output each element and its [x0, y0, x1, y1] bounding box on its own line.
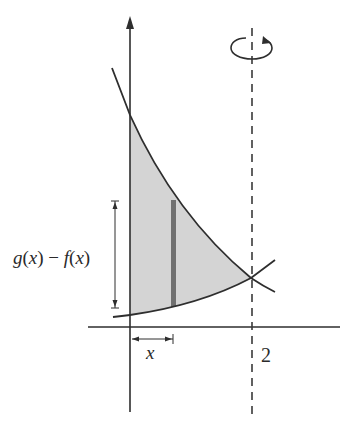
height-label: g(x) − f(x): [13, 247, 90, 269]
shell-method-diagram: g(x) − f(x) x 2: [0, 0, 340, 434]
y-axis-arrow-icon: [126, 16, 134, 29]
radius-label: x: [145, 342, 155, 363]
axis-tick-label-2: 2: [261, 344, 271, 366]
representative-strip: [171, 200, 176, 307]
height-indicator: [111, 201, 119, 308]
